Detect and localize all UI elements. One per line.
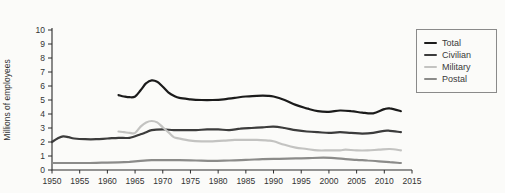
y-tick-label: 1 [40, 151, 45, 161]
x-tick-label: 1975 [181, 176, 200, 186]
legend-swatch-total-icon [424, 42, 437, 45]
y-tick-label: 9 [40, 39, 45, 49]
x-tick-label: 2000 [319, 176, 338, 186]
series-line-military [119, 121, 401, 150]
legend-item-postal: Postal [424, 75, 491, 84]
y-tick-label: 7 [40, 67, 45, 77]
x-tick-label: 2015 [403, 176, 422, 186]
legend-item-military: Military [424, 63, 491, 72]
legend-swatch-postal-icon [424, 78, 437, 81]
x-tick-label: 2005 [347, 176, 366, 186]
y-tick-label: 6 [40, 81, 45, 91]
legend: Total Civilian Military Postal [416, 29, 497, 93]
x-tick-label: 2010 [375, 176, 394, 186]
x-tick-label: 1955 [70, 176, 89, 186]
legend-label-total: Total [442, 39, 461, 48]
y-tick-label: 2 [40, 137, 45, 147]
legend-swatch-civilian-icon [424, 54, 437, 57]
x-tick-label: 1950 [43, 176, 62, 186]
series-line-total [119, 80, 401, 113]
y-tick-label: 4 [40, 109, 45, 119]
series-line-postal [52, 158, 401, 163]
legend-item-total: Total [424, 39, 491, 48]
x-tick-label: 1970 [153, 176, 172, 186]
legend-swatch-military-icon [424, 66, 437, 69]
chart-page: Federal Government Employees, 1950–2013 … [0, 0, 505, 193]
y-tick-label: 3 [40, 123, 45, 133]
x-tick-label: 1990 [264, 176, 283, 186]
legend-label-postal: Postal [442, 75, 467, 84]
y-tick-label: 5 [40, 95, 45, 105]
x-tick-label: 1965 [126, 176, 145, 186]
legend-label-military: Military [442, 63, 471, 72]
x-tick-label: 1980 [209, 176, 228, 186]
legend-item-civilian: Civilian [424, 51, 491, 60]
x-tick-label: 1995 [292, 176, 311, 186]
x-tick-label: 1985 [236, 176, 255, 186]
y-tick-label: 0 [40, 165, 45, 175]
x-tick-label: 1960 [98, 176, 117, 186]
y-axis-title: Millions of employees [2, 59, 12, 140]
y-tick-label: 10 [36, 25, 46, 35]
y-tick-label: 8 [40, 53, 45, 63]
legend-label-civilian: Civilian [442, 51, 471, 60]
